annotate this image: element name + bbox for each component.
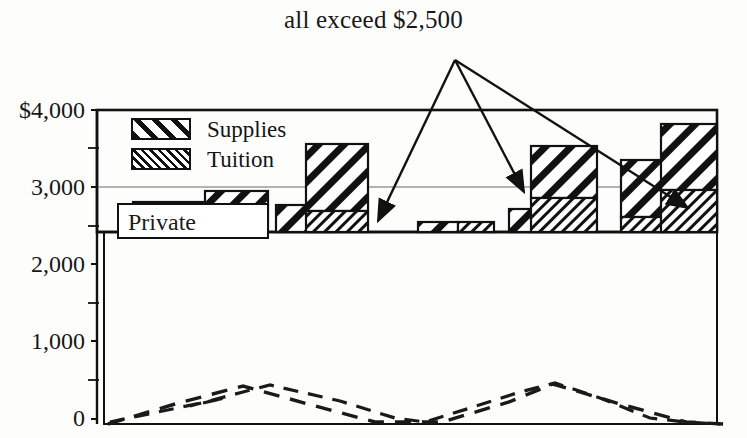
bar-2b-supplies [306, 144, 368, 211]
bar-3b-tuition [458, 222, 494, 232]
bar-group-2 [276, 144, 368, 232]
arrow-to-group-2 [378, 60, 455, 221]
decorative-zigzag [110, 383, 720, 424]
plot-area [0, 0, 747, 438]
legend-swatch-tuition-icon [131, 148, 191, 170]
legend-item-supplies: Supplies [131, 116, 286, 142]
bar-4b-supplies [531, 146, 597, 198]
legend-swatch-supplies-icon [131, 118, 191, 140]
bar-2b-tuition [306, 211, 368, 232]
chart-figure: all exceed $2,500 $4,000 3,000 2,000 1,0… [0, 0, 747, 438]
arrow-to-group-4 [455, 60, 524, 192]
bar-4b-tuition [531, 198, 597, 232]
legend-label-supplies: Supplies [207, 118, 286, 141]
chart-legend: Supplies Tuition [131, 116, 286, 176]
bar-group-3 [418, 222, 494, 232]
legend-label-tuition: Tuition [207, 148, 274, 171]
bar-5b-supplies [661, 124, 717, 190]
bar-3a-supplies [418, 222, 458, 232]
private-callout-label: Private [128, 210, 196, 234]
bar-group-5 [621, 124, 717, 232]
legend-item-tuition: Tuition [131, 146, 286, 172]
